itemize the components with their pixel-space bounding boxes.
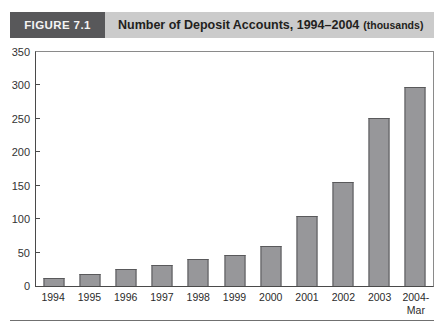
x-tick-label-1997: 1997 [150,291,173,304]
y-tick-label-50: 50 [18,247,30,258]
y-tick-mark-200 [36,151,40,152]
figure-title: Number of Deposit Accounts, 1994–2004 [118,18,359,32]
x-tick-label-1998: 1998 [187,291,210,304]
y-tick-label-200: 200 [12,147,30,158]
figure-number-label: FIGURE 7.1 [10,12,105,38]
x-tick-label-2000: 2000 [259,291,282,304]
y-tick-label-0: 0 [24,281,30,292]
bar-1996 [116,269,137,286]
y-tick-label-250: 250 [12,113,30,124]
bar-2001 [296,216,317,286]
plot-area: 050100150200250300350 [35,51,434,287]
figure-7-1: FIGURE 7.1 Number of Deposit Accounts, 1… [0,0,442,328]
x-tick-label-1999: 1999 [223,291,246,304]
bar-1995 [80,274,101,286]
x-tick-label-2003: 2003 [368,291,391,304]
bar-2003 [368,118,389,286]
y-tick-label-100: 100 [12,214,30,225]
bottom-rule [10,320,434,321]
x-axis-labels: 1994199519961997199819992000200120022003… [35,287,434,317]
figure-title-strip: Number of Deposit Accounts, 1994–2004 (t… [105,12,434,38]
x-tick-label-1995: 1995 [78,291,101,304]
y-tick-mark-250 [36,118,40,119]
x-tick-label-2001: 2001 [295,291,318,304]
bar-2000 [260,246,281,286]
y-tick-mark-50 [36,252,40,253]
figure-title-units: (thousands) [363,19,423,31]
y-tick-label-300: 300 [12,80,30,91]
x-tick-label-2004: 2004- Mar [402,291,429,317]
figure-header: FIGURE 7.1 Number of Deposit Accounts, 1… [10,12,434,38]
y-tick-mark-150 [36,185,40,186]
bar-2004 [404,87,425,286]
y-tick-label-150: 150 [12,180,30,191]
deposit-accounts-bar-chart: 050100150200250300350 199419951996199719… [10,51,434,317]
x-tick-label-1994: 1994 [41,291,64,304]
x-tick-label-1996: 1996 [114,291,137,304]
x-tick-label-2002: 2002 [332,291,355,304]
bar-1997 [152,265,173,286]
bar-1998 [188,259,209,286]
bar-1994 [44,278,65,286]
bar-1999 [224,255,245,286]
bar-2002 [332,182,353,286]
y-tick-mark-100 [36,218,40,219]
y-tick-label-350: 350 [12,47,30,58]
y-tick-mark-300 [36,84,40,85]
